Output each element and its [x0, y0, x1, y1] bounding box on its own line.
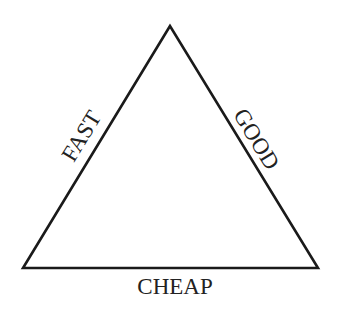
triangle-diagram: FAST GOOD CHEAP — [0, 0, 338, 315]
label-good: GOOD — [228, 104, 284, 174]
label-cheap: CHEAP — [137, 274, 212, 299]
label-fast: FAST — [57, 106, 107, 166]
